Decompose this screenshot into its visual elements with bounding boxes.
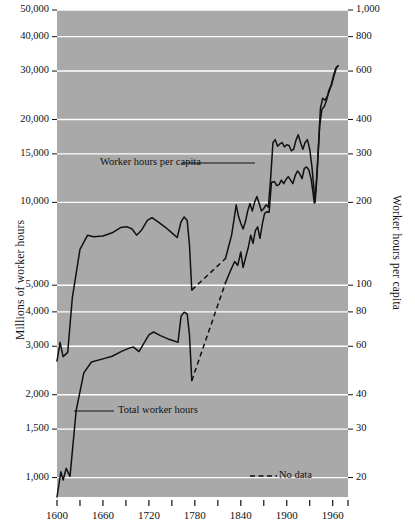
legend-entry-no-data: No data <box>279 469 312 480</box>
left-axis-tick-label: 2,000 <box>0 388 49 399</box>
x-axis-tick-label: 1780 <box>184 509 206 521</box>
right-axis-tick-label: 800 <box>356 30 372 41</box>
series-line <box>225 66 338 259</box>
left-axis-tick-label: 20,000 <box>0 113 49 124</box>
annotation-worker-hours-per-capita: Worker hours per capita <box>100 156 201 167</box>
right-axis-title: Worker hours per capita <box>391 195 403 310</box>
left-axis-tick-label: 1,000 <box>0 471 49 482</box>
right-axis-tick-label: 30 <box>356 422 367 433</box>
left-axis-tick-label: 15,000 <box>0 147 49 158</box>
right-axis-tick-label: 80 <box>356 305 367 316</box>
right-axis-tick-label: 600 <box>356 64 372 75</box>
annotation-total-worker-hours: Total worker hours <box>118 404 198 415</box>
chart-canvas <box>0 0 415 529</box>
series-line-no-data <box>192 283 226 381</box>
right-axis-tick-label: 60 <box>356 339 367 350</box>
right-axis-tick-label: 300 <box>356 147 372 158</box>
series-line <box>225 66 338 283</box>
x-axis-tick-label: 1900 <box>276 509 298 521</box>
x-axis-tick-label: 1660 <box>92 509 114 521</box>
right-axis-tick-label: 400 <box>356 113 372 124</box>
x-axis-tick-label: 1600 <box>46 509 68 521</box>
left-axis-tick-label: 50,000 <box>0 3 49 14</box>
right-axis-tick-label: 20 <box>356 471 367 482</box>
chart-figure: 1,0001,5002,0003,0004,0005,00010,00015,0… <box>0 0 415 529</box>
x-axis-tick-label: 1840 <box>230 509 252 521</box>
right-axis-tick-label: 200 <box>356 195 372 206</box>
left-axis-tick-label: 40,000 <box>0 30 49 41</box>
x-axis-tick-label: 1720 <box>138 509 160 521</box>
right-axis-tick-label: 1,000 <box>356 3 380 14</box>
x-axis-tick-label: 1960 <box>322 509 344 521</box>
right-axis-tick-label: 40 <box>356 388 367 399</box>
left-axis-title: Millions of worker hours <box>14 220 26 340</box>
left-axis-tick-label: 1,500 <box>0 422 49 433</box>
left-axis-tick-label: 10,000 <box>0 195 49 206</box>
left-axis-tick-label: 30,000 <box>0 64 49 75</box>
left-axis-tick-label: 3,000 <box>0 339 49 350</box>
right-axis-tick-label: 100 <box>356 278 372 289</box>
